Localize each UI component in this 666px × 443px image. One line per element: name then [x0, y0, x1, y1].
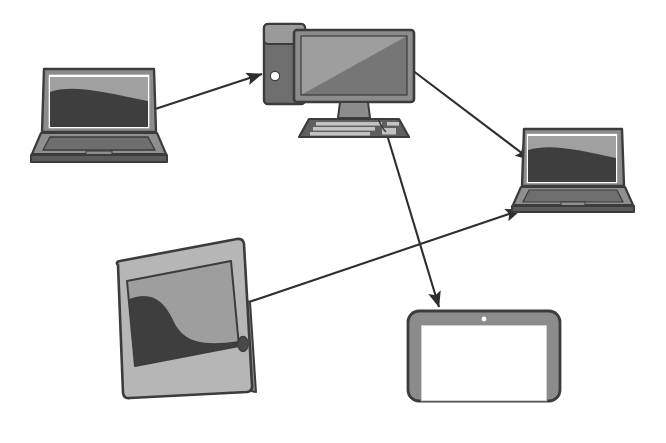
laptop-right-front-edge [512, 206, 634, 212]
node-laptop-right[interactable] [512, 129, 634, 212]
laptop-left-front-edge [31, 155, 167, 162]
device-network-diagram [0, 0, 666, 443]
power-button-icon[interactable] [270, 71, 279, 80]
tablet-camera-dot-icon [482, 317, 487, 322]
node-tablet-tilted[interactable] [117, 239, 256, 398]
tablet-blank-screen [421, 325, 547, 401]
keyboard-row-3 [310, 132, 370, 136]
desktop-monitor-screen [301, 36, 407, 95]
keyboard-row-1 [316, 122, 382, 126]
diagram-canvas [0, 0, 666, 443]
node-tablet-blank[interactable] [408, 311, 560, 401]
keyboard-numpad-1 [387, 122, 399, 126]
laptop-right-keyboard-area [523, 190, 623, 202]
laptop-left-keyboard-area [43, 137, 155, 150]
keyboard-row-2 [313, 127, 375, 131]
tablet-home-button-icon[interactable] [238, 336, 248, 351]
desktop-monitor-stand [338, 102, 370, 118]
node-laptop-left[interactable] [31, 69, 167, 162]
